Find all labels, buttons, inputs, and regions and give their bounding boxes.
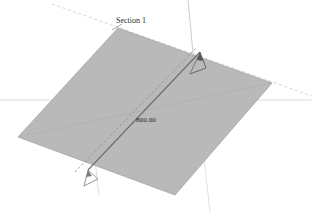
section-arrow-start-flag — [84, 179, 98, 186]
section-view-canvas[interactable] — [0, 0, 312, 213]
drawing-viewport[interactable]: Section 1 800.00 — [0, 0, 312, 213]
section-plane-face[interactable] — [18, 28, 272, 195]
section-name-label[interactable]: Section 1 — [116, 17, 146, 25]
dimension-value-label[interactable]: 800.00 — [136, 117, 156, 124]
